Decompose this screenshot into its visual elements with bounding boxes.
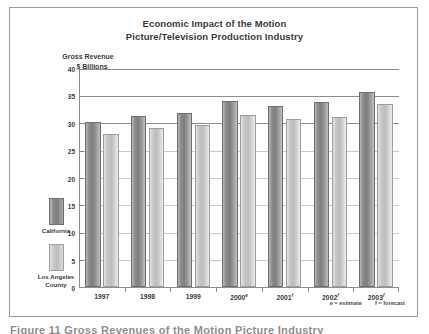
x-tick-label-1997: 1997: [94, 293, 109, 300]
y-axis-title-line-1: Gross Revenue: [48, 52, 128, 62]
plot-area: 05101520253035401997199819992000e2001f20…: [79, 69, 399, 288]
bar-2003-los-angeles-county: [377, 104, 393, 287]
legend-swatch-california: [49, 198, 64, 225]
chart-title: Economic Impact of the Motion Picture/Te…: [10, 17, 419, 43]
x-axis-line: [79, 287, 399, 288]
y-tick-10: [79, 233, 84, 234]
chart-legend: California Los Angeles County: [28, 198, 84, 298]
y-tick-label-20: 20: [68, 175, 75, 182]
y-tick-label-0: 0: [71, 285, 75, 292]
legend-label-los-angeles-county-line-2: County: [28, 281, 84, 289]
legend-label-los-angeles-county: Los Angeles County: [28, 273, 84, 289]
footnote-estimate: e = estimate: [330, 300, 362, 306]
chart-footnote: e = estimate f = forecast: [330, 300, 405, 306]
x-group-separator-3: [216, 288, 217, 292]
legend-entry-los-angeles-county: Los Angeles County: [28, 244, 84, 289]
chart-title-line-1: Economic Impact of the Motion: [10, 17, 419, 30]
bar-1997-california: [85, 122, 101, 287]
bar-2002-california: [314, 102, 330, 287]
x-group-separator-4: [262, 288, 263, 292]
gridline-40: [79, 69, 399, 70]
y-tick-label-15: 15: [68, 202, 75, 209]
bar-2001-los-angeles-county: [286, 119, 302, 287]
gridline-30: [79, 123, 399, 124]
x-group-separator-5: [308, 288, 309, 292]
x-tick-label-2000: 2000e: [230, 293, 248, 301]
bar-1997-los-angeles-county: [103, 134, 119, 287]
chart-title-line-2: Picture/Television Production Industry: [10, 30, 419, 43]
bar-2001-california: [268, 106, 284, 287]
y-tick-15: [79, 205, 84, 206]
chart-frame: Economic Impact of the Motion Picture/Te…: [9, 7, 418, 317]
figure-container: Economic Impact of the Motion Picture/Te…: [0, 0, 429, 334]
y-tick-20: [79, 178, 84, 179]
x-tick-label-2001: 2001f: [276, 293, 293, 301]
y-tick-label-10: 10: [68, 230, 75, 237]
y-tick-label-40: 40: [68, 66, 75, 73]
footnote-forecast: f = forecast: [375, 300, 405, 306]
y-tick-label-25: 25: [68, 148, 75, 155]
bar-2000-los-angeles-county: [240, 115, 256, 287]
x-tick-label-1999: 1999: [186, 293, 201, 300]
y-tick-label-5: 5: [71, 257, 75, 264]
y-tick-label-30: 30: [68, 120, 75, 127]
figure-caption: Figure 11 Gross Revenues of the Motion P…: [10, 324, 425, 334]
x-group-separator-1: [125, 288, 126, 292]
bar-2000-california: [222, 101, 238, 287]
gridline-35: [79, 96, 399, 97]
bar-2002-los-angeles-county: [332, 117, 348, 287]
x-group-separator-6: [353, 288, 354, 292]
bar-1999-california: [177, 113, 193, 287]
bar-1998-california: [131, 116, 147, 287]
legend-label-california-line-1: California: [28, 227, 84, 235]
legend-label-los-angeles-county-line-1: Los Angeles: [28, 273, 84, 281]
legend-swatch-los-angeles-county: [49, 244, 64, 271]
legend-label-california: California: [28, 227, 84, 235]
x-tick-label-1998: 1998: [140, 293, 155, 300]
bar-2003-california: [359, 92, 375, 287]
y-tick-25: [79, 151, 84, 152]
y-tick-label-35: 35: [68, 93, 75, 100]
x-group-separator-2: [170, 288, 171, 292]
bar-1998-los-angeles-county: [149, 128, 165, 287]
legend-entry-california: California: [28, 198, 84, 235]
x-group-separator-end: [398, 288, 399, 292]
y-tick-5: [79, 260, 84, 261]
bar-1999-los-angeles-county: [195, 125, 211, 287]
